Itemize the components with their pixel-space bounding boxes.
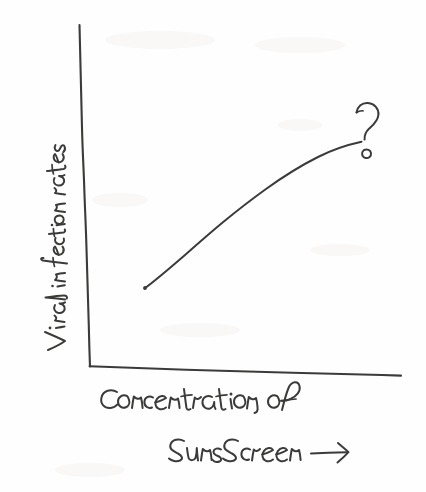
y-axis-label-glyphs <box>41 145 67 350</box>
chart-drawing <box>0 0 426 492</box>
right-arrow-icon <box>311 443 349 463</box>
x-axis-label-line2 <box>169 439 349 462</box>
data-series-curve <box>143 142 361 290</box>
question-mark-icon <box>357 103 379 158</box>
y-axis-line <box>80 25 91 367</box>
paper-texture <box>55 31 370 477</box>
y-axis-label <box>41 145 67 350</box>
sketch-canvas: Viral infection rates concentration of s… <box>0 0 426 492</box>
curve-start-nib <box>143 286 147 290</box>
x-axis-label-line1 <box>101 382 300 413</box>
x-axis-line <box>90 366 401 375</box>
trend-line <box>145 142 362 289</box>
